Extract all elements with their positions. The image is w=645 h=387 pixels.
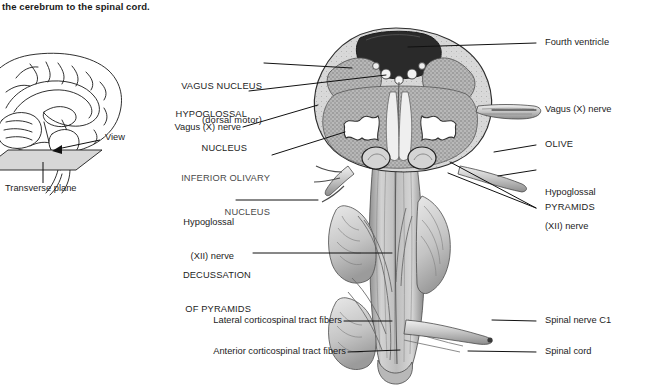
leader-olive	[494, 145, 536, 152]
leader-inferior-olivary-nucleus	[272, 132, 345, 155]
label-hypoglossal-xii-nerve-right-line2: (XII) nerve	[545, 221, 596, 232]
label-fourth-ventricle: Fourth ventricle	[545, 37, 609, 48]
label-hypoglossal-xii-nerve-right-line1: Hypoglossal	[545, 187, 596, 198]
label-spinal-cord: Spinal cord	[545, 346, 592, 357]
label-spinal-nerve-c1: Spinal nerve C1	[545, 315, 611, 326]
leader-anterior-corticospinal	[348, 350, 400, 352]
label-hypoglossal-nucleus-line1: HYPOGLOSSAL	[88, 109, 247, 120]
label-pyramids: PYRAMIDS	[545, 202, 595, 213]
label-vagus-x-nerve-left: Vagus (X) nerve	[88, 122, 241, 133]
label-decussation-of-pyramids-line1: DECUSSATION	[88, 270, 251, 281]
leader-spinal-cord	[468, 351, 536, 352]
leader-vagus-nucleus	[264, 63, 352, 68]
label-decussation-of-pyramids-line2: OF PYRAMIDS	[88, 304, 251, 315]
leader-hypoglossal-nucleus	[249, 75, 386, 91]
figure-page: the cerebrum to the spinal cord.	[0, 0, 645, 387]
label-olive: OLIVE	[545, 139, 573, 150]
leader-hypoglossal-xii-nerve-right	[498, 170, 536, 176]
leader-fourth-ventricle	[408, 43, 536, 47]
leader-spinal-nerve-c1	[492, 320, 536, 321]
leader-pyramids-b	[448, 173, 536, 208]
leader-pyramids-a	[450, 162, 536, 208]
label-lateral-corticospinal-tract-fibers: Lateral corticospinal tract fibers	[88, 315, 342, 326]
label-vagus-x-nerve-right: Vagus (X) nerve	[545, 104, 612, 115]
label-hypoglossal-xii-nerve-left-line1: Hypoglossal	[88, 217, 234, 228]
label-inferior-olivary-nucleus-line1: INFERIOR OLIVARY	[88, 173, 270, 184]
label-anterior-corticospinal-tract-fibers: Anterior corticospinal tract fibers	[88, 346, 346, 357]
